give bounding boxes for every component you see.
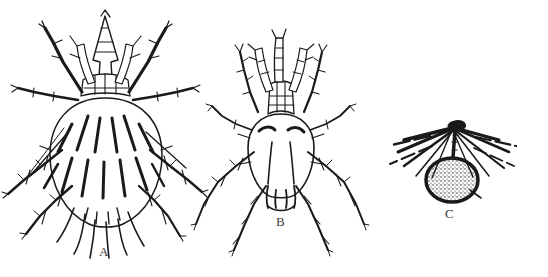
figure-a-palp-right: [115, 44, 133, 84]
figure-b-body-outline: [248, 114, 314, 198]
figure-b-lateral-seta-right-1: [312, 134, 324, 138]
figure-c-group: [390, 121, 516, 202]
figure-a-ventral-barb-3: [108, 212, 109, 224]
figure-a-palp-left: [77, 44, 95, 84]
figure-a-leg-3-right-tip: [202, 190, 208, 197]
figure-a-leg-4-left: [26, 186, 72, 234]
figure-b-posterior-seta-3: [286, 190, 287, 208]
figure-b-leg-1-right-node-2: [318, 70, 325, 72]
figure-b-leg-3-right-barb-1: [326, 160, 332, 166]
figure-a-leg-4-left-barb-2: [34, 211, 40, 216]
figure-b-palp-right-barb-1: [307, 44, 314, 50]
figure-a-palp-right-seta-1: [133, 36, 141, 46]
figure-a-dorsal-seta-9: [103, 162, 104, 198]
figure-b-palp-right: [289, 48, 307, 92]
figure-b-leg-1-right-node-1: [312, 92, 319, 94]
figure-b-leg-4-left-tip: [229, 250, 234, 256]
figure-a-palp-left-seta-1: [70, 36, 77, 46]
figure-a-leg-1-right-tip: [166, 21, 172, 28]
figure-a-leg-3-left-tip: [2, 192, 8, 198]
figure-b-chelicera-tip: [272, 29, 286, 38]
figure-b-label: B: [276, 215, 285, 228]
figure-b-posterior-arc: [268, 206, 294, 211]
figure-b-leg-4-left: [234, 186, 266, 250]
figure-b-leg-3-right-tip: [364, 224, 369, 230]
figure-a-leg-4-left-barb-1: [50, 195, 56, 200]
figure-a-leg-2-right-tip: [193, 85, 200, 92]
figure-c-label: C: [445, 207, 454, 220]
figure-b-leg-1-right-tip: [319, 44, 327, 52]
figure-a-posterior-seta-5: [128, 212, 144, 246]
figure-a-posterior-seta-6: [57, 208, 74, 242]
figure-a-leg-2-left: [18, 88, 78, 100]
figure-a-group: [2, 10, 208, 258]
figure-b-leg-1-left-node-2: [237, 70, 244, 72]
figure-b-palp-left: [255, 48, 273, 92]
figure-a-body-outline: [50, 98, 162, 227]
figure-b-leg-1-left-tip: [235, 44, 243, 52]
figure-a-ventral-barb-2: [96, 212, 97, 224]
figure-b-palp-left-barb-1: [248, 44, 255, 50]
plate-drawing: [0, 0, 548, 277]
figure-b-posterior-seta-2: [275, 190, 276, 208]
figure-a-leg-4-right-barb-1: [154, 195, 160, 200]
figure-b-posterior-seta-1: [267, 186, 269, 208]
figure-a-leg-1-left: [45, 28, 82, 92]
figure-a-leg-3-right-barb-1: [170, 160, 176, 166]
figure-b-leg-4-right: [296, 186, 328, 250]
figure-a-leg-1-right: [129, 28, 166, 92]
figure-b-leg-1-right-barb-1: [309, 76, 315, 80]
figure-a-rostrum: [93, 16, 118, 78]
figure-a-leg-3-left-barb-2: [18, 174, 24, 180]
figure-b-leg-2-left-tip: [206, 104, 212, 111]
figure-a-leg-1-left-tip: [39, 21, 45, 28]
figure-b-leg-3-left-barb-2: [212, 177, 218, 182]
figure-b-leg-2-right-tip: [350, 104, 356, 111]
figure-b-leg-2-left: [212, 106, 252, 130]
figure-c-body: [426, 158, 478, 202]
figure-b-leg-1-left-node-1: [243, 92, 250, 94]
figure-a-leg-4-right-tip: [180, 236, 186, 241]
figure-a-label: A: [99, 245, 109, 258]
illustration-plate: A B C: [0, 0, 548, 277]
figure-b-leg-1-left-barb-1: [247, 76, 253, 80]
figure-b-leg-4-right-tip: [328, 250, 333, 256]
figure-b-lateral-seta-left-1: [238, 134, 250, 138]
figure-b-posterior-seta-4: [294, 186, 296, 208]
figure-a-leg-2-right: [133, 88, 193, 100]
figure-a-leg-2-left-tip: [11, 85, 18, 92]
figure-a-leg-4-left-tip: [20, 233, 26, 239]
figure-b-leg-3-right-barb-2: [344, 177, 350, 182]
figure-b-chelicera-left: [274, 38, 283, 82]
figure-c-seta-7: [456, 129, 509, 152]
figure-b-leg-3-left-barb-1: [230, 160, 236, 166]
figure-b-leg-2-right: [310, 106, 350, 130]
figure-b-leg-3-left-tip: [191, 224, 196, 230]
